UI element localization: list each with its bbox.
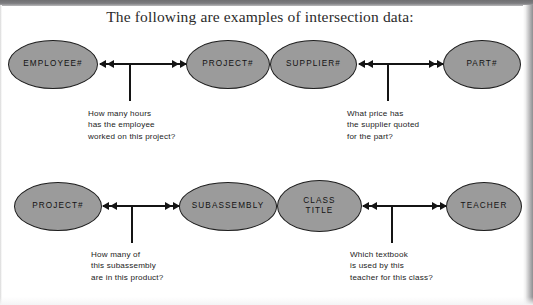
arrowhead-left-outer: [99, 60, 106, 68]
arrowhead-left-inner: [366, 60, 373, 68]
arrowhead-right-inner: [165, 202, 172, 210]
relationship-connector-class-teacher: [363, 205, 446, 207]
arrowhead-left-inner: [107, 60, 114, 68]
arrowhead-left-inner: [370, 202, 377, 210]
arrowhead-right-inner: [432, 202, 439, 210]
connector-stem: [391, 205, 393, 243]
arrowhead-left-inner: [110, 202, 117, 210]
scan-top-shadow-band: [0, 0, 533, 6]
entity-node-teacher: TEACHER: [446, 182, 522, 231]
connector-stem: [387, 63, 389, 101]
relationship-caption-employee-project: How many hours has the employee worked o…: [88, 108, 223, 142]
entity-node-supplier: SUPPLIER#: [270, 40, 357, 89]
relationship-caption-supplier-part: What price has the supplier quoted for t…: [347, 108, 487, 142]
scan-right-shadow-band: [523, 5, 533, 305]
connector-stem: [129, 63, 131, 101]
connector-stem: [131, 205, 133, 243]
entity-node-project-bottom: PROJECT#: [14, 182, 102, 231]
entity-node-subassembly: SUBASSEMBLY: [179, 182, 277, 231]
arrowhead-left-outer: [102, 202, 109, 210]
scanned-figure-page: The following are examples of intersecti…: [0, 0, 533, 305]
entity-node-employee: EMPLOYEE#: [8, 40, 98, 89]
arrowhead-right-inner: [429, 60, 436, 68]
arrowhead-right-inner: [172, 60, 179, 68]
scan-bottom-shadow: [0, 297, 533, 305]
figure-title: The following are examples of intersecti…: [0, 8, 520, 26]
relationship-connector-employee-project: [100, 63, 186, 65]
arrowhead-left-outer: [362, 202, 369, 210]
relationship-caption-project-subassembly: How many of this subassembly are in this…: [91, 249, 231, 283]
arrowhead-left-outer: [358, 60, 365, 68]
entity-node-part: PART#: [443, 40, 521, 89]
entity-node-project-top: PROJECT#: [186, 40, 270, 89]
entity-node-class-title: CLASS TITLE: [277, 180, 362, 232]
relationship-connector-supplier-part: [359, 63, 443, 65]
scan-left-edge: [0, 5, 2, 305]
relationship-connector-project-subassembly: [103, 205, 179, 207]
relationship-caption-class-teacher: Which textbook is used by this teacher f…: [350, 249, 495, 283]
